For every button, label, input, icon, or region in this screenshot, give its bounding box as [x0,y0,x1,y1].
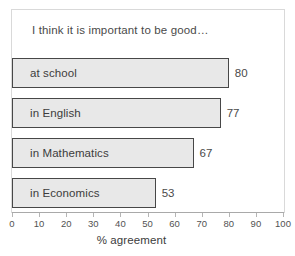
bar-chart: I think it is important to be good… at s… [0,0,295,256]
x-tick-mark [229,213,230,217]
x-tick-label: 70 [196,218,207,229]
x-tick-mark [66,213,67,217]
x-tick-mark [175,213,176,217]
x-tick-mark [12,213,13,217]
x-axis-title: % agreement [0,234,295,246]
bar-category-label: at school [30,58,77,88]
x-tick-label: 50 [142,218,153,229]
x-tick-label: 100 [275,218,291,229]
x-tick-label: 80 [224,218,235,229]
x-tick-label: 40 [115,218,126,229]
bar-category-label: in Economics [30,178,100,208]
bar-value-label: 77 [227,98,240,128]
bar-value-label: 80 [235,58,248,88]
x-tick-mark [202,213,203,217]
x-tick-mark [283,213,284,217]
x-tick-mark [120,213,121,217]
x-tick-mark [256,213,257,217]
x-tick-label: 0 [9,218,14,229]
x-tick-mark [93,213,94,217]
x-tick-mark [39,213,40,217]
x-axis-title-label: % agreement [97,234,167,246]
bar-value-label: 67 [200,138,213,168]
x-tick-label: 90 [251,218,262,229]
x-tick-mark [148,213,149,217]
x-tick-label: 10 [34,218,45,229]
x-tick-label: 20 [61,218,72,229]
bar-category-label: in Mathematics [30,138,109,168]
x-tick-label: 60 [169,218,180,229]
bar-category-label: in English [30,98,81,128]
bar-value-label: 53 [162,178,175,208]
x-tick-label: 30 [88,218,99,229]
